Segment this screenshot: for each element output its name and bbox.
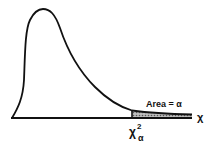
area-label: Area = α [146,99,182,109]
critical-value-subscript: α [138,133,144,143]
critical-value-label: χ 2 α [129,122,144,143]
critical-value-superscript: 2 [137,122,142,131]
critical-value-base: χ [129,125,136,139]
x-axis-label: χ [197,111,204,123]
chi-square-diagram: Area = α χ χ 2 α [0,0,212,146]
